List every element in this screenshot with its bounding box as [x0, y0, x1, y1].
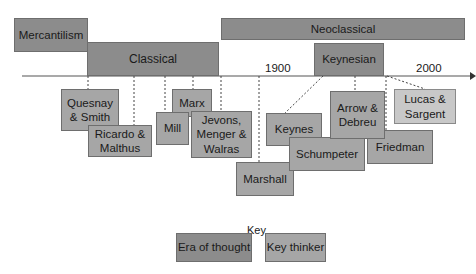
thinker-marshall: Marshall	[236, 162, 294, 196]
key-era-swatch: Era of thought	[176, 233, 252, 262]
era-classical: Classical	[87, 42, 219, 76]
thinker-jevons-menger-walras: Jevons, Menger & Walras	[191, 111, 252, 158]
thinker-ricardo-malthus: Ricardo & Malthus	[88, 125, 152, 157]
era-neoclassical: Neoclassical	[221, 18, 465, 40]
thinker-arrow-debreu: Arrow & Debreu	[330, 91, 385, 139]
key-thinker-swatch: Key thinker	[265, 233, 326, 262]
year-label-2000: 2000	[416, 62, 442, 74]
thinker-mill: Mill	[156, 112, 189, 145]
year-label-1900: 1900	[265, 62, 291, 74]
thinker-schumpeter: Schumpeter	[289, 137, 365, 171]
era-keynesian: Keynesian	[314, 43, 384, 76]
era-mercantilism: Mercantilism	[14, 18, 88, 52]
thinker-lucas-sargent: Lucas & Sargent	[394, 89, 456, 124]
